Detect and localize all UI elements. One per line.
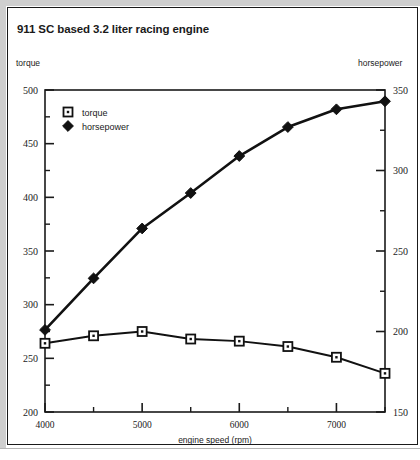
marker-horsepower xyxy=(380,96,391,107)
marker-torque-center xyxy=(287,345,289,347)
legend-label-torque: torque xyxy=(82,108,108,118)
marker-torque-center xyxy=(190,338,192,340)
left-axis-ticklabel: 300 xyxy=(23,299,38,310)
x-axis-ticklabel: 5000 xyxy=(133,420,152,430)
plot-axes-frame xyxy=(45,90,385,412)
marker-torque-center xyxy=(384,372,386,374)
chart-plot: 200250300350400450500 150200250300350 40… xyxy=(0,0,420,460)
right-axis-ticklabel: 300 xyxy=(393,165,408,176)
legend-marker-horsepower xyxy=(63,121,74,132)
left-axis-ticklabel: 200 xyxy=(23,407,38,418)
x-axis-ticks xyxy=(45,403,385,412)
figure-canvas: 911 SC based 3.2 liter racing engine tor… xyxy=(0,0,420,460)
legend-marker-torque-center xyxy=(67,111,69,113)
marker-torque-center xyxy=(141,330,143,332)
legend-label-horsepower: horsepower xyxy=(82,122,129,132)
right-axis-ticks xyxy=(376,90,385,412)
right-axis-ticklabel: 350 xyxy=(393,85,408,96)
x-axis-title: engine speed (rpm) xyxy=(178,435,252,445)
marker-torque-center xyxy=(44,342,46,344)
left-axis-ticklabels: 200250300350400450500 xyxy=(23,85,38,418)
x-axis-ticklabel: 7000 xyxy=(327,420,346,430)
series-line-horsepower xyxy=(45,101,385,330)
x-axis-ticklabel: 4000 xyxy=(36,420,55,430)
marker-torque-center xyxy=(238,340,240,342)
marker-horsepower xyxy=(331,104,342,115)
marker-torque-center xyxy=(92,335,94,337)
data-series-layer xyxy=(40,96,391,378)
marker-horsepower xyxy=(282,122,293,133)
left-axis-ticklabel: 400 xyxy=(23,192,38,203)
left-axis-ticklabel: 350 xyxy=(23,246,38,257)
chart-legend: torquehorsepower xyxy=(63,108,129,132)
series-markers-torque xyxy=(41,327,390,378)
left-axis-ticklabel: 450 xyxy=(23,138,38,149)
right-axis-ticklabel: 150 xyxy=(393,407,408,418)
right-axis-ticklabel: 250 xyxy=(393,246,408,257)
x-axis-ticklabels: 4000500060007000 xyxy=(36,420,347,430)
marker-torque-center xyxy=(335,356,337,358)
right-axis-ticklabel: 200 xyxy=(393,326,408,337)
x-axis-ticklabel: 6000 xyxy=(230,420,249,430)
left-axis-ticklabel: 500 xyxy=(23,85,38,96)
left-axis-ticklabel: 250 xyxy=(23,353,38,364)
right-axis-ticklabels: 150200250300350 xyxy=(393,85,408,418)
left-axis-ticks xyxy=(45,90,54,412)
series-markers-horsepower xyxy=(40,96,391,335)
